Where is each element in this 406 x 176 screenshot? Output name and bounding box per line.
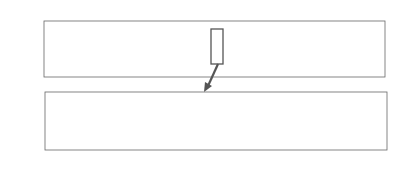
- top-plot: [44, 21, 385, 92]
- figure: [0, 0, 406, 176]
- bottom-plot-frame: [45, 92, 387, 150]
- bottom-plot: [45, 92, 387, 150]
